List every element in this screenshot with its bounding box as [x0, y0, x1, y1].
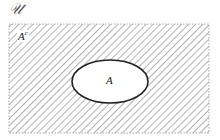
- complement-superscript: c: [25, 29, 28, 37]
- complement-base: A: [18, 30, 25, 42]
- venn-diagram: [0, 0, 220, 140]
- set-a-label: A: [106, 75, 113, 86]
- complement-label: Ac: [17, 30, 29, 42]
